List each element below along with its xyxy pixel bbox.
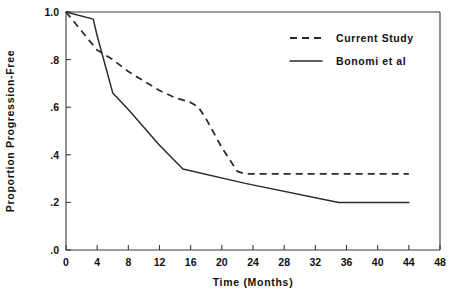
axis-lines <box>66 12 440 250</box>
x-tick-label: 32 <box>309 256 321 268</box>
x-tick-label: 36 <box>341 256 353 268</box>
x-tick-label: 12 <box>154 256 166 268</box>
x-axis-title: Time (Months) <box>213 276 294 288</box>
x-tick-label: 44 <box>403 256 415 268</box>
y-tick-label: 1.0 <box>44 6 59 18</box>
y-tick-label: .8 <box>50 54 59 66</box>
x-tick-label: 28 <box>278 256 290 268</box>
y-axis-title: Proportion Progression-Free <box>4 50 16 212</box>
chart-axes <box>66 12 440 250</box>
chart-legend: Current StudyBonomi et al <box>290 32 414 67</box>
x-tick-label: 4 <box>94 256 100 268</box>
chart-svg: 04812162024283236404448.0.2.4.6.81.0 Cur… <box>0 0 454 290</box>
legend-label: Bonomi et al <box>336 55 406 67</box>
y-tick-label: .4 <box>50 149 59 161</box>
x-tick-label: 0 <box>63 256 69 268</box>
x-tick-label: 40 <box>372 256 384 268</box>
x-tick-label: 24 <box>247 256 259 268</box>
x-tick-label: 16 <box>185 256 197 268</box>
chart-ticks <box>66 12 440 250</box>
chart-figure: 04812162024283236404448.0.2.4.6.81.0 Cur… <box>0 0 454 290</box>
y-tick-label: .2 <box>50 196 59 208</box>
legend-label: Current Study <box>336 32 414 44</box>
chart-tick-labels: 04812162024283236404448.0.2.4.6.81.0 <box>44 6 446 268</box>
x-tick-label: 48 <box>434 256 446 268</box>
y-tick-label: .0 <box>50 244 59 256</box>
x-tick-label: 20 <box>216 256 228 268</box>
y-tick-label: .6 <box>50 101 59 113</box>
x-tick-label: 8 <box>125 256 131 268</box>
